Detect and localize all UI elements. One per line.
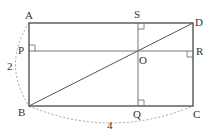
- label-b: B: [18, 106, 25, 118]
- right-angle-mark-p: [29, 45, 35, 51]
- arc-ab-dimension: [16, 23, 30, 106]
- label-r: R: [196, 45, 204, 57]
- label-c: C: [193, 108, 200, 120]
- label-q: Q: [133, 108, 141, 120]
- diagonal-bd: [29, 23, 193, 106]
- label-o: O: [139, 54, 147, 66]
- label-s: S: [134, 8, 140, 20]
- label-d: D: [195, 16, 203, 28]
- right-angle-mark-r: [187, 51, 193, 57]
- right-angle-mark-q: [138, 100, 144, 106]
- label-a: A: [25, 9, 33, 21]
- label-p: P: [18, 44, 24, 56]
- right-angle-mark-s: [138, 23, 144, 29]
- dimension-label-2: 2: [7, 60, 13, 72]
- geometry-diagram: A D B C S Q P R O 2 4: [0, 0, 209, 132]
- dimension-label-4: 4: [107, 119, 113, 131]
